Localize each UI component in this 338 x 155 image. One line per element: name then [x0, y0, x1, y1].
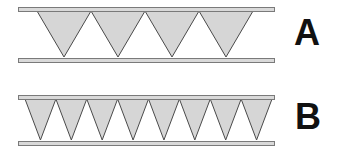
top-chord: [19, 8, 275, 12]
truss-diagram: [0, 0, 338, 155]
label-b: B: [295, 99, 321, 135]
truss-triangle: [25, 99, 56, 140]
label-a: A: [294, 15, 320, 51]
top-chord: [19, 96, 275, 100]
truss-triangle: [87, 99, 118, 140]
truss-triangle: [118, 99, 149, 140]
truss-a: [19, 8, 275, 63]
truss-triangle: [37, 11, 91, 57]
truss-triangle: [199, 11, 253, 57]
truss-triangle: [56, 99, 87, 140]
bottom-chord: [19, 142, 275, 146]
truss-b: [19, 96, 275, 146]
bottom-chord: [19, 59, 275, 63]
truss-triangle: [149, 99, 180, 140]
truss-triangle: [145, 11, 199, 57]
truss-triangle: [210, 99, 241, 140]
truss-triangle: [241, 99, 272, 140]
truss-triangle: [91, 11, 145, 57]
truss-triangle: [179, 99, 210, 140]
